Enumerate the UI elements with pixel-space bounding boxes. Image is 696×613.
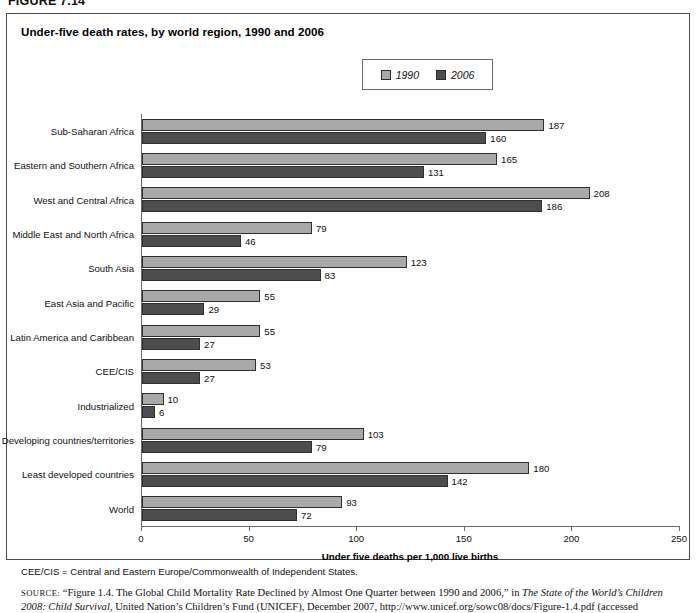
bar-1990: 103: [142, 428, 364, 440]
bar-value-label: 27: [204, 338, 215, 349]
bar-value-label: 72: [301, 510, 312, 521]
bar-1990: 208: [142, 187, 590, 199]
bar-value-label: 79: [316, 441, 327, 452]
bar-1990: 55: [142, 325, 260, 337]
x-axis-tick: [249, 526, 250, 531]
bar-fill: [142, 393, 164, 405]
category-label: Sub-Saharan Africa: [51, 126, 134, 137]
bar-value-label: 29: [208, 304, 219, 315]
chart-title: Under-five death rates, by world region,…: [21, 25, 324, 38]
bar-fill: [142, 475, 448, 487]
bar-group: Developing countries/territories10379: [141, 423, 679, 457]
x-axis-line: [141, 526, 679, 527]
bar-group: West and Central Africa208186: [141, 183, 679, 217]
bar-1990: 165: [142, 153, 497, 165]
category-label: Middle East and North Africa: [12, 229, 134, 240]
bar-fill: [142, 428, 364, 440]
figure-panel: Under-five death rates, by world region,…: [6, 13, 690, 560]
source-prefix: SOURCE:: [21, 588, 60, 598]
bar-value-label: 131: [428, 166, 444, 177]
x-axis-tick: [356, 526, 357, 531]
bar-value-label: 93: [346, 497, 357, 508]
bar-value-label: 27: [204, 372, 215, 383]
bar-group: East Asia and Pacific5529: [141, 286, 679, 320]
bar-fill: [142, 359, 256, 371]
bar-value-label: 55: [264, 291, 275, 302]
bar-value-label: 79: [316, 222, 327, 233]
x-axis-tick-label: 150: [456, 533, 472, 544]
bar-2006: 6: [142, 406, 155, 418]
source-note: SOURCE: “Figure 1.4. The Global Child Mo…: [21, 586, 681, 613]
legend-entry-1990: 1990: [381, 69, 419, 81]
legend-swatch-2006: [436, 70, 446, 80]
bar-1990: 55: [142, 290, 260, 302]
bar-group: Sub-Saharan Africa187160: [141, 114, 679, 148]
bar-fill: [142, 406, 155, 418]
bar-2006: 186: [142, 200, 542, 212]
bar-2006: 29: [142, 303, 204, 315]
bar-fill: [142, 222, 312, 234]
bar-value-label: 46: [245, 235, 256, 246]
bar-1990: 79: [142, 222, 312, 234]
bar-1990: 93: [142, 496, 342, 508]
bar-value-label: 165: [501, 153, 517, 164]
legend-label-1990: 1990: [396, 69, 419, 81]
bar-value-label: 55: [264, 325, 275, 336]
bar-1990: 10: [142, 393, 164, 405]
bar-value-label: 6: [159, 407, 164, 418]
bar-group: World9372: [141, 492, 679, 526]
bar-1990: 180: [142, 462, 529, 474]
bar-fill: [142, 166, 424, 178]
category-label: Latin America and Caribbean: [10, 332, 134, 343]
bar-value-label: 187: [548, 119, 564, 130]
bar-2006: 27: [142, 338, 200, 350]
x-axis-tick-label: 250: [671, 533, 687, 544]
category-label: CEE/CIS: [96, 366, 134, 377]
bar-group: South Asia12383: [141, 251, 679, 285]
bar-fill: [142, 509, 297, 521]
chart-legend: 19902006: [362, 59, 493, 90]
bar-group: CEE/CIS5327: [141, 354, 679, 388]
bar-fill: [142, 153, 497, 165]
bar-2006: 27: [142, 372, 200, 384]
bar-group: Latin America and Caribbean5527: [141, 320, 679, 354]
bar-fill: [142, 235, 241, 247]
source-text-part-2: , United Nation’s Children’s Fund (UNICE…: [21, 601, 638, 613]
bar-value-label: 160: [490, 132, 506, 143]
x-axis-tick-label: 100: [348, 533, 364, 544]
bar-2006: 79: [142, 441, 312, 453]
category-label: Industrialized: [77, 400, 134, 411]
bar-2006: 83: [142, 269, 321, 281]
bar-fill: [142, 119, 544, 131]
bar-2006: 46: [142, 235, 241, 247]
bar-value-label: 103: [368, 428, 384, 439]
category-label: East Asia and Pacific: [44, 297, 134, 308]
bar-value-label: 83: [325, 269, 336, 280]
bar-value-label: 180: [533, 462, 549, 473]
bar-fill: [142, 290, 260, 302]
x-axis-tick: [464, 526, 465, 531]
category-label: Least developed countries: [22, 469, 134, 480]
legend-swatch-1990: [381, 70, 391, 80]
bar-fill: [142, 269, 321, 281]
bar-fill: [142, 496, 342, 508]
chart-footnote: CEE/CIS = Central and Eastern Europe/Com…: [21, 566, 358, 577]
bar-fill: [142, 187, 590, 199]
bar-fill: [142, 303, 204, 315]
category-label: World: [109, 503, 134, 514]
bar-1990: 53: [142, 359, 256, 371]
x-axis-tick-label: 200: [563, 533, 579, 544]
bar-fill: [142, 338, 200, 350]
bar-value-label: 10: [168, 394, 179, 405]
category-label: Developing countries/territories: [2, 435, 134, 446]
category-label: West and Central Africa: [33, 194, 134, 205]
legend-label-2006: 2006: [451, 69, 474, 81]
x-axis-tick: [141, 526, 142, 531]
bar-2006: 72: [142, 509, 297, 521]
bar-fill: [142, 325, 260, 337]
bar-value-label: 142: [452, 475, 468, 486]
x-axis-tick-label: 0: [138, 533, 143, 544]
x-axis-title: Under five deaths per 1,000 live births: [141, 551, 679, 562]
bar-value-label: 208: [594, 188, 610, 199]
bar-2006: 131: [142, 166, 424, 178]
